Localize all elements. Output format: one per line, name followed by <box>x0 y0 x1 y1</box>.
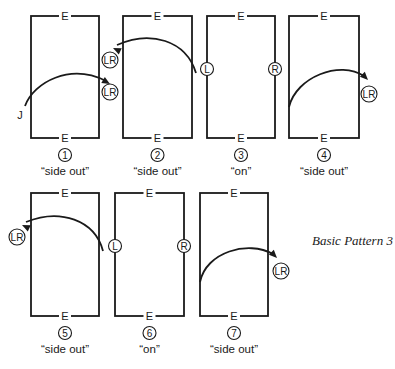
step-caption: “side out” <box>300 165 348 177</box>
badge-label: L <box>112 241 118 252</box>
court-rectangle <box>31 16 99 138</box>
movement-arc <box>289 70 364 107</box>
step-number: 3 <box>238 150 244 161</box>
step-caption: “on” <box>139 343 160 355</box>
badge-label: L <box>204 64 210 75</box>
edge-label-top: E <box>61 10 68 22</box>
edge-label-top: E <box>61 187 68 199</box>
badge-label: R <box>271 64 278 75</box>
step-caption: “side out” <box>210 343 258 355</box>
panel-3: EELR3“on” <box>201 10 282 177</box>
edge-label-top: E <box>146 187 153 199</box>
badge-label: R <box>180 241 187 252</box>
court-rectangle <box>123 16 192 138</box>
edge-label-bottom: E <box>320 132 327 144</box>
badge-label: LR <box>104 55 117 66</box>
position-badge-l: L <box>201 63 214 76</box>
edge-label-top: E <box>154 10 161 22</box>
position-badge-lr: LR <box>361 86 377 102</box>
arrowhead-icon <box>21 222 31 232</box>
edge-label-bottom: E <box>154 132 161 144</box>
start-marker-j: J <box>17 109 23 121</box>
edge-label-top: E <box>237 10 244 22</box>
movement-arc <box>117 38 196 73</box>
edge-label-bottom: E <box>61 310 68 322</box>
step-number: 5 <box>62 328 68 339</box>
panel-1: EELR1“side out” <box>25 10 118 177</box>
position-badge-r: R <box>269 63 282 76</box>
step-caption: “side out” <box>41 165 89 177</box>
edge-label-bottom: E <box>61 132 68 144</box>
panel-7: EELR7“side out” <box>200 187 289 355</box>
step-number: 2 <box>155 150 161 161</box>
figure-title: Basic Pattern 3 <box>312 233 393 248</box>
badge-label: LR <box>11 232 24 243</box>
position-badge-r: R <box>178 240 191 253</box>
court-rectangle <box>200 193 268 316</box>
panel-6: EELR6“on” <box>109 187 191 355</box>
edge-label-bottom: E <box>146 310 153 322</box>
badge-label: LR <box>104 87 117 98</box>
step-caption: “on” <box>231 165 252 177</box>
edge-label-top: E <box>230 187 237 199</box>
edge-label-bottom: E <box>237 132 244 144</box>
position-badge-lr: LR <box>102 52 118 68</box>
panels-group: EELR1“side out”EELR2“side out”EELR3“on”E… <box>9 10 377 355</box>
court-rectangle <box>31 193 99 316</box>
position-badge-lr: LR <box>273 263 289 279</box>
arrowhead-icon <box>269 250 280 261</box>
step-number: 1 <box>62 150 68 161</box>
edge-label-bottom: E <box>230 310 237 322</box>
court-rectangle <box>115 193 184 316</box>
basic-pattern-diagram: EELR1“side out”EELR2“side out”EELR3“on”E… <box>0 0 395 369</box>
step-number: 6 <box>147 328 153 339</box>
panel-5: EELR5“side out” <box>9 187 103 355</box>
position-badge-l: L <box>109 240 122 253</box>
court-rectangle <box>207 16 275 138</box>
movement-arc <box>26 216 103 251</box>
court-rectangle <box>289 16 359 138</box>
diagram-canvas: EELR1“side out”EELR2“side out”EELR3“on”E… <box>0 0 395 369</box>
position-badge-lr: LR <box>102 84 118 100</box>
edge-label-top: E <box>320 10 327 22</box>
step-caption: “side out” <box>134 165 182 177</box>
position-badge-lr: LR <box>9 229 25 245</box>
panel-4: EELR4“side out” <box>289 10 377 177</box>
badge-label: LR <box>363 89 376 100</box>
badge-label: LR <box>275 266 288 277</box>
step-caption: “side out” <box>41 343 89 355</box>
movement-arc <box>25 74 106 106</box>
step-number: 4 <box>321 150 327 161</box>
movement-arc <box>200 248 273 282</box>
step-number: 7 <box>231 328 237 339</box>
